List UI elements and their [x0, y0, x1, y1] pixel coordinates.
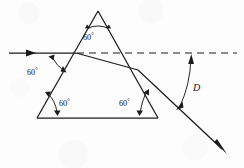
- bottom-right-arc-down-arrowhead: [137, 111, 144, 117]
- bottom-left-angle-label: 60°: [59, 97, 70, 108]
- deviation-angle-arc: [180, 58, 191, 106]
- diagram-canvas: 60° 60° 60° 60° D: [0, 0, 244, 168]
- bottom-left-arc-down-arrowhead: [54, 111, 61, 117]
- incidence-angle-annotation: [49, 55, 67, 73]
- apex-angle-annotation: [85, 25, 111, 29]
- apex-angle-arc: [88, 26, 108, 28]
- deviation-arc-bottom-arrowhead: [176, 102, 184, 111]
- deviation-angle-label: D: [192, 82, 201, 93]
- prism-refraction-figure: 60° 60° 60° 60° D: [0, 0, 244, 168]
- prism-triangle: [37, 11, 158, 118]
- bottom-right-angle-arc: [140, 92, 146, 112]
- apex-angle-label: 60°: [83, 31, 94, 42]
- emergent-ray: [138, 70, 227, 154]
- deviation-arc-top-arrowhead: [188, 54, 194, 64]
- incident-ray: [9, 50, 76, 57]
- bottom-right-angle-annotation: [137, 89, 150, 116]
- emergent-ray-arrowhead: [214, 139, 227, 154]
- internal-refracted-ray: [76, 53, 138, 70]
- incident-ray-arrowhead: [26, 50, 36, 57]
- emergent-ray-line: [138, 70, 222, 149]
- deviation-angle-annotation: [176, 54, 194, 110]
- incidence-angle-label: 60°: [27, 66, 38, 77]
- bottom-right-angle-label: 60°: [119, 97, 130, 108]
- incidence-arc-up-arrowhead: [49, 55, 55, 61]
